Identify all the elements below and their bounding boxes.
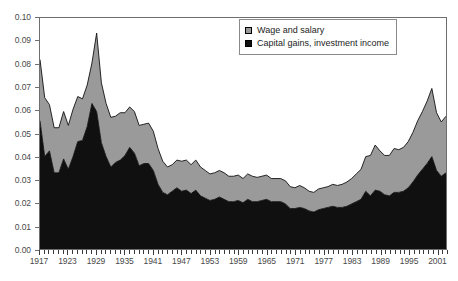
- x-tick-mark: [67, 250, 68, 255]
- x-tick-mark: [404, 250, 405, 254]
- x-tick-mark: [186, 250, 187, 254]
- y-tick-label: 0.05: [15, 129, 31, 139]
- x-tick-mark: [143, 250, 144, 254]
- x-tick-mark: [319, 250, 320, 254]
- x-tick-mark: [338, 250, 339, 254]
- x-tick-label: 1923: [58, 256, 77, 266]
- x-tick-mark: [362, 250, 363, 254]
- x-tick-mark: [414, 250, 415, 254]
- legend-item-wage-and-salary: Wage and salary: [245, 24, 389, 37]
- x-tick-mark: [158, 250, 159, 254]
- x-tick-label: 1959: [229, 256, 248, 266]
- x-tick-mark: [139, 250, 140, 254]
- y-tick-label: 0.03: [15, 175, 31, 185]
- x-tick-label: 1983: [343, 256, 362, 266]
- x-tick-mark: [200, 250, 201, 254]
- x-tick-mark: [86, 250, 87, 254]
- x-tick-mark: [276, 250, 277, 254]
- x-tick-mark: [428, 250, 429, 254]
- x-tick-mark: [267, 250, 268, 255]
- x-tick-mark: [120, 250, 121, 254]
- x-tick-mark: [352, 250, 353, 255]
- x-tick-mark: [371, 250, 372, 254]
- x-tick-mark: [82, 250, 83, 254]
- x-tick-mark: [39, 250, 40, 255]
- x-tick-mark: [324, 250, 325, 255]
- x-tick-mark: [328, 250, 329, 254]
- x-tick-mark: [177, 250, 178, 254]
- x-tick-mark: [400, 250, 401, 254]
- x-tick-mark: [53, 250, 54, 254]
- x-tick-mark: [333, 250, 334, 254]
- chart-legend: Wage and salary Capital gains, investmen…: [239, 19, 397, 55]
- y-tick-label: 0.06: [15, 105, 31, 115]
- x-tick-mark: [77, 250, 78, 254]
- x-tick-label: 1935: [115, 256, 134, 266]
- x-tick-mark: [385, 250, 386, 254]
- x-tick-mark: [243, 250, 244, 254]
- x-tick-mark: [191, 250, 192, 254]
- x-tick-mark: [433, 250, 434, 254]
- legend-swatch-icon-capital: [245, 40, 252, 47]
- y-tick-label: 0.00: [15, 245, 31, 255]
- x-tick-mark: [271, 250, 272, 254]
- x-tick-mark: [224, 250, 225, 254]
- x-tick-mark: [343, 250, 344, 254]
- x-tick-label: 1917: [30, 256, 49, 266]
- x-tick-mark: [101, 250, 102, 254]
- x-tick-mark: [210, 250, 211, 255]
- x-tick-mark: [419, 250, 420, 254]
- x-tick-label: 1995: [400, 256, 419, 266]
- x-tick-mark: [281, 250, 282, 254]
- x-tick-mark: [290, 250, 291, 254]
- x-axis-labels: 1917192319291935194119471953195919651971…: [0, 256, 458, 276]
- x-tick-mark: [234, 250, 235, 254]
- x-tick-mark: [262, 250, 263, 254]
- x-tick-label: 1929: [87, 256, 106, 266]
- x-tick-mark: [167, 250, 168, 254]
- x-tick-mark: [248, 250, 249, 254]
- x-tick-mark: [447, 250, 448, 254]
- x-tick-mark: [229, 250, 230, 254]
- legend-label-capital: Capital gains, investment income: [257, 37, 389, 50]
- x-tick-mark: [115, 250, 116, 254]
- x-tick-mark: [376, 250, 377, 254]
- x-tick-mark: [63, 250, 64, 254]
- x-tick-mark: [390, 250, 391, 254]
- x-tick-mark: [215, 250, 216, 254]
- x-tick-mark: [153, 250, 154, 255]
- x-tick-mark: [309, 250, 310, 254]
- x-tick-mark: [366, 250, 367, 254]
- chart-page: 0.000.010.020.030.040.050.060.070.080.09…: [0, 0, 458, 281]
- y-tick-label: 0.08: [15, 59, 31, 69]
- x-tick-mark: [129, 250, 130, 254]
- x-tick-mark: [409, 250, 410, 255]
- x-tick-mark: [314, 250, 315, 254]
- x-tick-mark: [91, 250, 92, 254]
- x-tick-mark: [96, 250, 97, 255]
- x-tick-mark: [238, 250, 239, 255]
- x-tick-label: 2001: [428, 256, 447, 266]
- x-tick-mark: [124, 250, 125, 255]
- x-tick-label: 1941: [144, 256, 163, 266]
- x-tick-mark: [423, 250, 424, 254]
- x-tick-mark: [300, 250, 301, 254]
- x-tick-mark: [110, 250, 111, 254]
- x-tick-mark: [438, 250, 439, 255]
- x-tick-mark: [442, 250, 443, 254]
- x-tick-mark: [181, 250, 182, 255]
- x-tick-mark: [162, 250, 163, 254]
- x-tick-mark: [295, 250, 296, 255]
- legend-label-wage: Wage and salary: [257, 24, 324, 37]
- x-tick-mark: [395, 250, 396, 254]
- y-tick-label: 0.10: [15, 12, 31, 22]
- x-tick-mark: [148, 250, 149, 254]
- legend-swatch-icon-wage: [245, 27, 252, 34]
- y-tick-label: 0.02: [15, 198, 31, 208]
- x-tick-mark: [172, 250, 173, 254]
- y-axis: 0.000.010.020.030.040.050.060.070.080.09…: [0, 0, 39, 281]
- x-tick-mark: [44, 250, 45, 254]
- x-tick-mark: [72, 250, 73, 254]
- legend-item-capital-gains: Capital gains, investment income: [245, 37, 389, 50]
- x-tick-mark: [381, 250, 382, 255]
